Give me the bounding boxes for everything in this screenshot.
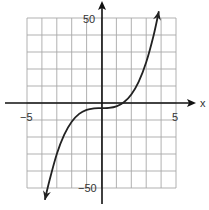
y-tick-min-label: −50 <box>78 182 97 194</box>
chart: x −5 5 50 −50 <box>0 0 209 210</box>
x-tick-min-label: −5 <box>20 111 33 123</box>
axes <box>5 1 196 204</box>
y-tick-max-label: 50 <box>83 13 95 25</box>
x-axis-label: x <box>200 97 206 109</box>
x-tick-max-label: 5 <box>172 111 178 123</box>
